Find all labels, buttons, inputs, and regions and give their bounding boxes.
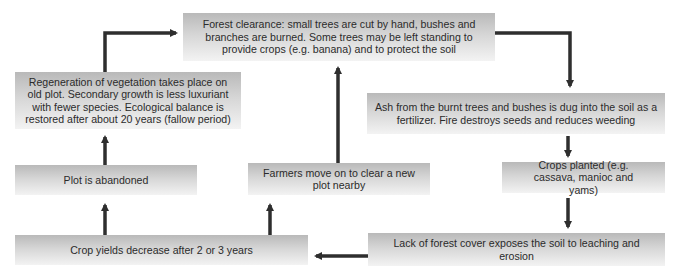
node-crop-yields-text: Crop yields decrease after 2 or 3 years [70, 244, 253, 257]
node-lack-of-forest-cover: Lack of forest cover exposes the soil to… [368, 233, 665, 266]
node-lack-of-forest-cover-text: Lack of forest cover exposes the soil to… [382, 237, 651, 262]
node-crops-planted-text: Crops planted (e.g. cassava, manioc and … [518, 159, 649, 197]
arrow-regeneration-to-clearance [105, 33, 176, 72]
arrow-clearance-to-ash [495, 33, 570, 86]
node-farmers-move: Farmers move on to clear a new plot near… [248, 163, 430, 195]
node-regeneration: Regeneration of vegetation takes place o… [15, 72, 241, 129]
node-regeneration-text: Regeneration of vegetation takes place o… [21, 76, 235, 126]
node-farmers-move-text: Farmers move on to clear a new plot near… [262, 167, 416, 192]
node-crops-planted: Crops planted (e.g. cassava, manioc and … [502, 162, 665, 193]
node-crop-yields: Crop yields decrease after 2 or 3 years [15, 235, 308, 265]
node-forest-clearance-text: Forest clearance: small trees are cut by… [189, 18, 489, 56]
node-ash-fertilizer-text: Ash from the burnt trees and bushes is d… [373, 101, 659, 126]
node-plot-abandoned: Plot is abandoned [15, 165, 197, 195]
node-ash-fertilizer: Ash from the burnt trees and bushes is d… [367, 93, 665, 134]
node-plot-abandoned-text: Plot is abandoned [64, 174, 149, 187]
node-forest-clearance: Forest clearance: small trees are cut by… [183, 13, 495, 61]
